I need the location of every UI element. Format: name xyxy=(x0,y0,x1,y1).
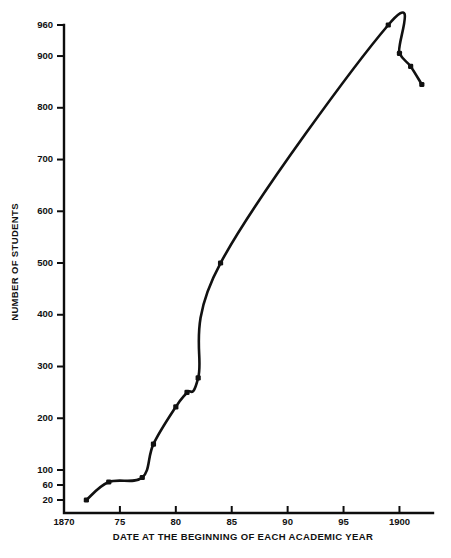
y-tick-label: 900 xyxy=(37,50,53,61)
data-point-marker xyxy=(397,51,402,56)
y-tick-label: 800 xyxy=(37,101,53,112)
x-tick-label: 1870 xyxy=(53,516,74,527)
data-point-marker xyxy=(218,260,223,265)
y-tick-label: 200 xyxy=(37,412,53,423)
x-tick-label: 80 xyxy=(171,516,182,527)
y-tick-label: 700 xyxy=(37,153,53,164)
chart-axes xyxy=(64,25,433,513)
data-point-marker xyxy=(173,404,178,409)
series-line-number-of-students xyxy=(86,12,421,500)
y-tick-label: 400 xyxy=(37,308,53,319)
data-point-marker xyxy=(386,22,391,27)
data-point-marker xyxy=(196,375,201,380)
data-point-marker xyxy=(408,64,413,69)
y-tick-label: 960 xyxy=(37,19,53,30)
y-tick-label: 300 xyxy=(37,360,53,371)
y-tick-label: 500 xyxy=(37,257,53,268)
data-point-marker xyxy=(419,82,424,87)
y-axis-title: NUMBER OF STUDENTS xyxy=(9,203,20,321)
y-tick-label: 60 xyxy=(42,479,53,490)
y-tick-label: 100 xyxy=(37,464,53,475)
axis-tick-labels: 2060100200300400500600700800900960187075… xyxy=(37,19,410,528)
x-tick-label: 90 xyxy=(282,516,293,527)
axis-ticks xyxy=(57,25,399,513)
data-point-marker xyxy=(151,442,156,447)
y-tick-label: 20 xyxy=(42,494,53,505)
data-point-markers xyxy=(84,22,425,502)
chart-figure: 2060100200300400500600700800900960187075… xyxy=(0,0,451,558)
data-point-marker xyxy=(84,497,89,502)
line-chart-canvas: 2060100200300400500600700800900960187075… xyxy=(0,0,451,558)
x-tick-label: 1900 xyxy=(389,516,410,527)
x-tick-label: 75 xyxy=(115,516,126,527)
x-tick-label: 95 xyxy=(338,516,349,527)
data-point-marker xyxy=(106,479,111,484)
data-point-marker xyxy=(184,390,189,395)
y-tick-label: 600 xyxy=(37,205,53,216)
x-tick-label: 85 xyxy=(226,516,237,527)
data-point-marker xyxy=(140,475,145,480)
x-axis-title: DATE AT THE BEGINNING OF EACH ACADEMIC Y… xyxy=(113,531,373,542)
data-series-group xyxy=(86,12,421,500)
